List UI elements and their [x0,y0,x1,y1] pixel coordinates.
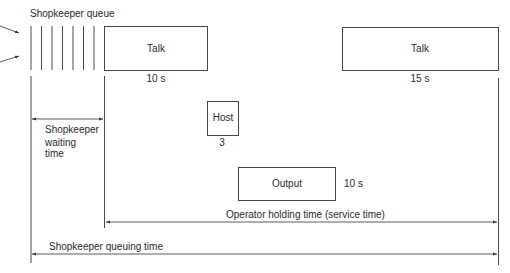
host-box-duration: 3 [219,137,225,149]
waiting-time-label-line-3: time [45,148,64,160]
queue-lines [31,26,94,70]
talk-box-2-duration: 15 s [411,73,430,85]
waiting-time-label-line-1: Shopkeeper [45,124,99,136]
holding-time-label: Operator holding time (service time) [226,209,385,221]
queue-label: Shopkeeper queue [30,8,115,20]
talk-box-1-label: Talk [147,43,165,55]
incoming-arrows [0,26,19,62]
output-box-duration: 10 s [344,178,363,190]
reference-lines [31,76,499,265]
queuing-time-label: Shopkeeper queuing time [49,241,163,253]
timing-diagram [0,0,510,273]
output-box-label: Output [272,178,302,190]
talk-box-2-label: Talk [411,43,429,55]
host-box-label: Host [213,112,234,124]
talk-box-1-duration: 10 s [147,73,166,85]
